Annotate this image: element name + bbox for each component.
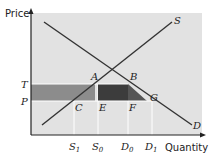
price-label-p: P: [20, 96, 28, 107]
tick-d0: D0: [120, 141, 134, 154]
demand-label: D: [192, 120, 201, 131]
tick-s0: S0: [92, 141, 104, 154]
y-axis-label: Price: [5, 8, 29, 19]
supply-label: S: [174, 15, 181, 26]
point-label-a: A: [90, 71, 98, 82]
region-consumer-loss: [31, 84, 95, 101]
point-label-c: C: [75, 102, 83, 113]
point-label-f: F: [128, 102, 137, 113]
price-label-t: T: [21, 79, 29, 90]
x-axis-label: Quantity: [165, 142, 208, 153]
supply-demand-diagram: Price Quantity S D T P A B C E F G S1 S0…: [0, 0, 212, 156]
tick-d1: D1: [144, 141, 158, 154]
point-label-e: E: [98, 102, 107, 113]
tick-s1: S1: [69, 141, 80, 154]
point-label-b: B: [129, 71, 137, 82]
region-rectangle-ef: [98, 84, 128, 101]
point-label-g: G: [150, 92, 158, 103]
x-axis-arrow-icon: [200, 133, 206, 138]
